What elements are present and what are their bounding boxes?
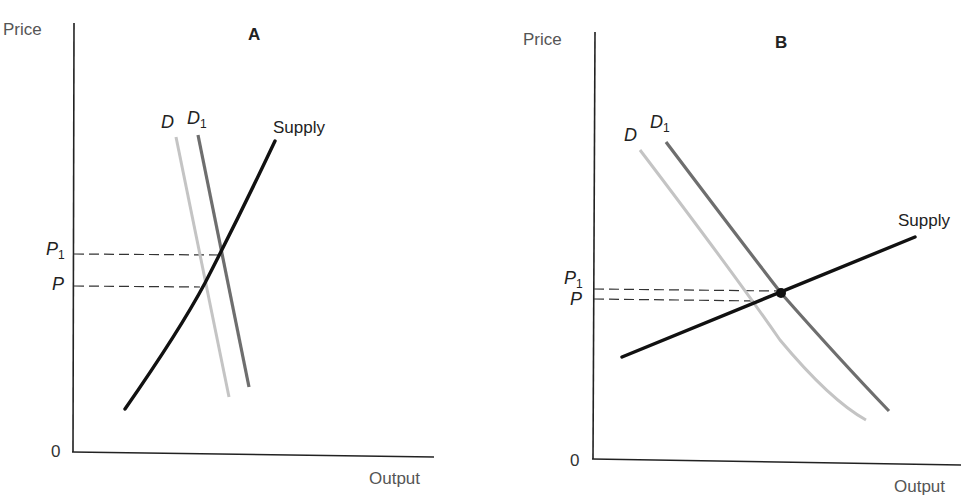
panel-a [72,23,434,457]
panel-b-title: B [775,34,787,51]
panel-b-y-axis-label: Price [523,31,562,48]
panel-b-supply-curve [622,237,915,357]
panel-a-y-axis [73,23,74,452]
panel-b-p1-dashed-line [594,289,779,291]
panel-b-demand-label: D [624,126,637,144]
panel-a-demand-shifted-curve [198,135,249,387]
panel-b-p-dashed-line [594,299,760,301]
panel-a-demand-label: D [161,113,174,131]
panel-a-price-label: P [52,275,64,293]
panel-a-demand-curve [176,137,229,397]
panel-b-price-shifted-label: P1 [564,269,583,290]
panel-a-price-shifted-label: P1 [46,240,65,261]
panel-b [592,32,961,465]
panel-a-y-axis-label: Price [3,21,42,38]
panel-a-p1-dashed-line [74,254,219,255]
panel-a-title: A [248,26,260,43]
panel-b-x-axis-label: Output [894,478,945,495]
panel-b-equilibrium-dot [776,288,786,298]
panel-a-x-axis [72,452,434,457]
panel-b-x-axis [592,459,961,465]
panel-a-p-dashed-line [74,286,200,287]
panel-b-demand-curve [640,150,866,420]
panel-a-supply-label: Supply [273,119,325,136]
panel-a-supply-curve [125,141,275,409]
panel-a-demand-shifted-label: D1 [187,109,207,130]
panel-b-demand-shifted-curve [666,142,889,411]
diagram-canvas [0,0,963,502]
panel-b-supply-label: Supply [898,212,950,229]
panel-b-y-axis [593,32,595,459]
panel-a-x-axis-label: Output [369,470,420,487]
panel-a-origin-label: 0 [51,443,60,460]
panel-b-demand-shifted-label: D1 [650,113,670,134]
panel-b-origin-label: 0 [570,452,579,469]
panel-b-price-label: P [570,290,582,308]
